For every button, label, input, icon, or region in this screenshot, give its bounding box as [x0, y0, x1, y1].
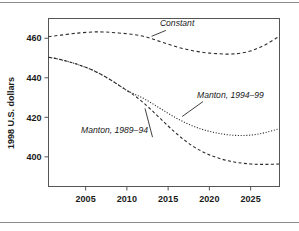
y-axis-title: 1998 U.S. dollars	[6, 77, 16, 149]
bottom-divider-rule	[0, 222, 299, 223]
line-chart: 1998 U.S. dollars 400420440460 200520102…	[0, 6, 299, 220]
x-tick-label: 2015	[158, 194, 178, 204]
annotation-leader-line	[182, 102, 203, 117]
annotation-label: Manton, 1994–99	[197, 90, 264, 100]
x-axis-ticks: 20052010201520202025	[76, 187, 261, 204]
figure-canvas: 1998 U.S. dollars 400420440460 200520102…	[0, 0, 299, 231]
y-tick-label: 420	[26, 113, 41, 123]
y-tick-label: 400	[26, 152, 41, 162]
y-axis-ticks: 400420440460	[26, 33, 48, 162]
series-line-manton-1989-94	[49, 57, 280, 164]
series-annotations: ConstantManton, 1994–99Manton, 1989–94	[81, 18, 264, 137]
x-tick-label: 2010	[117, 194, 137, 204]
annotation-leader-line	[152, 30, 166, 36]
x-tick-label: 2005	[76, 194, 96, 204]
y-tick-label: 440	[26, 73, 41, 83]
x-tick-label: 2020	[199, 194, 219, 204]
annotation-label: Manton, 1989–94	[81, 125, 148, 135]
chart-plot-area: 1998 U.S. dollars 400420440460 200520102…	[0, 6, 299, 220]
annotation-label: Constant	[160, 18, 195, 28]
plot-frame	[49, 19, 280, 187]
series-line-constant	[49, 32, 280, 54]
x-tick-label: 2025	[241, 194, 261, 204]
top-divider-rule	[0, 2, 299, 3]
y-tick-label: 460	[26, 33, 41, 43]
